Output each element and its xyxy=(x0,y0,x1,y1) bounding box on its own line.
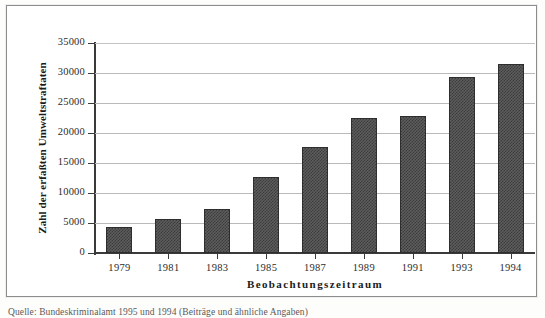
x-axis-tick xyxy=(168,254,169,259)
y-axis-tick-label: 35000 xyxy=(7,36,85,47)
x-axis-tick-label: 1985 xyxy=(255,262,277,273)
y-axis-tick-label: 20000 xyxy=(7,126,85,137)
x-axis-tick-label: 1981 xyxy=(157,262,179,273)
plot-area xyxy=(95,43,535,253)
gridline xyxy=(95,73,535,74)
y-axis-tick-label: 10000 xyxy=(7,186,85,197)
chart-frame: Zahl der erfaßten Umweltstraftaten Beoba… xyxy=(6,5,537,297)
bar xyxy=(498,64,524,253)
y-axis-tick-label: 5000 xyxy=(7,216,85,227)
x-axis-tick xyxy=(462,254,463,259)
x-axis-tick-label: 1994 xyxy=(499,262,521,273)
y-axis-tick xyxy=(88,133,95,134)
x-axis-tick xyxy=(266,254,267,259)
y-axis-tick xyxy=(88,73,95,74)
x-axis-title: Beobachtungszeitraum xyxy=(95,278,535,290)
bar xyxy=(302,147,328,253)
x-axis-tick xyxy=(511,254,512,259)
source-caption: Quelle: Bundeskriminalamt 1995 und 1994 … xyxy=(8,307,528,318)
x-axis-tick xyxy=(364,254,365,259)
y-axis-tick xyxy=(88,253,95,254)
chart-page: Zahl der erfaßten Umweltstraftaten Beoba… xyxy=(0,0,545,318)
x-axis-tick xyxy=(413,254,414,259)
x-axis-tick-label: 1989 xyxy=(353,262,375,273)
y-axis-tick xyxy=(88,103,95,104)
bar xyxy=(106,227,132,253)
x-axis-tick-label: 1979 xyxy=(108,262,130,273)
gridline xyxy=(95,43,535,44)
x-axis-tick-label: 1983 xyxy=(206,262,228,273)
bar xyxy=(400,116,426,253)
x-axis-tick xyxy=(315,254,316,259)
y-axis-tick xyxy=(88,223,95,224)
bar xyxy=(204,209,230,253)
bar xyxy=(449,77,475,253)
x-axis-tick-label: 1991 xyxy=(402,262,424,273)
bar xyxy=(253,177,279,253)
x-axis-tick xyxy=(217,254,218,259)
y-axis-tick-label: 25000 xyxy=(7,96,85,107)
bar xyxy=(351,118,377,253)
y-axis-tick xyxy=(88,163,95,164)
x-axis-tick-label: 1987 xyxy=(304,262,326,273)
y-axis-tick xyxy=(88,193,95,194)
y-axis-tick-label: 30000 xyxy=(7,66,85,77)
y-axis-tick-label: 15000 xyxy=(7,156,85,167)
y-axis-tick xyxy=(88,43,95,44)
x-axis-tick-label: 1993 xyxy=(451,262,473,273)
y-axis-tick-label: 0 xyxy=(7,246,85,257)
bar xyxy=(155,219,181,253)
x-axis-tick xyxy=(119,254,120,259)
